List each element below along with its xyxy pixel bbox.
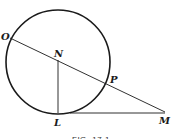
- figure-caption: FIG. 17.1: [72, 135, 110, 139]
- secant-line-OM: [10, 38, 165, 112]
- point-label-L: L: [53, 117, 61, 128]
- point-label-O: O: [1, 31, 10, 42]
- geometry-figure: O N P L M FIG. 17.1: [0, 0, 180, 139]
- point-label-P: P: [109, 74, 118, 85]
- point-label-M: M: [158, 115, 171, 126]
- point-label-N: N: [53, 48, 64, 59]
